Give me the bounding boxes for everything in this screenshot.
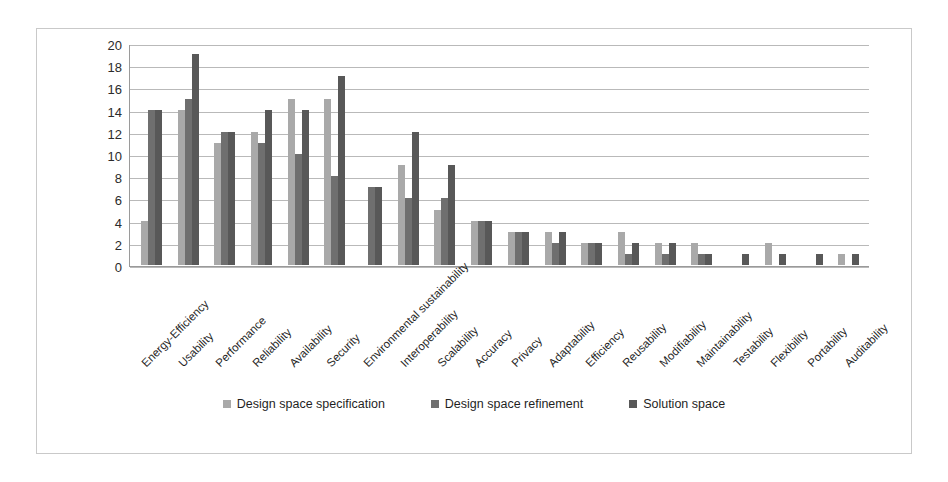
legend-swatch-icon bbox=[431, 400, 439, 408]
bar bbox=[324, 99, 331, 266]
y-tick-label: 2 bbox=[115, 238, 122, 251]
bar bbox=[765, 243, 772, 265]
bar bbox=[625, 254, 632, 265]
bar bbox=[221, 132, 228, 265]
bar bbox=[265, 110, 272, 265]
bar bbox=[185, 99, 192, 266]
bar bbox=[141, 221, 148, 265]
bar bbox=[581, 243, 588, 265]
y-tick-label: 0 bbox=[115, 261, 122, 274]
legend-label: Design space refinement bbox=[445, 397, 583, 411]
bar-group bbox=[647, 45, 684, 265]
legend-label: Solution space bbox=[643, 397, 725, 411]
bar-group bbox=[830, 45, 867, 265]
bar bbox=[515, 232, 522, 265]
bar bbox=[595, 243, 602, 265]
bar-group bbox=[757, 45, 794, 265]
bar-group bbox=[684, 45, 721, 265]
bar-group bbox=[720, 45, 757, 265]
bar-group bbox=[427, 45, 464, 265]
legend-item[interactable]: Solution space bbox=[629, 397, 725, 411]
bar bbox=[852, 254, 859, 265]
bar bbox=[375, 187, 382, 265]
x-tick-label: Privacy bbox=[509, 334, 544, 369]
bar-group bbox=[573, 45, 610, 265]
bar-group bbox=[206, 45, 243, 265]
bar-group bbox=[610, 45, 647, 265]
bar bbox=[338, 76, 345, 265]
y-tick-label: 10 bbox=[108, 150, 122, 163]
bar bbox=[698, 254, 705, 265]
bar bbox=[228, 132, 235, 265]
bar bbox=[412, 132, 419, 265]
chart-legend: Design space specificationDesign space r… bbox=[37, 397, 911, 411]
legend-swatch-icon bbox=[629, 400, 637, 408]
bar bbox=[552, 243, 559, 265]
x-tick-label: Portability bbox=[805, 325, 849, 369]
bar bbox=[192, 54, 199, 265]
legend-swatch-icon bbox=[223, 400, 231, 408]
y-tick-label: 20 bbox=[108, 39, 122, 52]
bar bbox=[251, 132, 258, 265]
bar bbox=[178, 110, 185, 265]
bar bbox=[214, 143, 221, 265]
bar-groups bbox=[131, 45, 869, 265]
bar bbox=[508, 232, 515, 265]
bar bbox=[816, 254, 823, 265]
bar bbox=[448, 165, 455, 265]
bar bbox=[662, 254, 669, 265]
bar bbox=[485, 221, 492, 265]
bar-group bbox=[133, 45, 170, 265]
bar bbox=[302, 110, 309, 265]
y-tick-label: 18 bbox=[108, 61, 122, 74]
bar-group bbox=[500, 45, 537, 265]
bar bbox=[258, 143, 265, 265]
bar-group bbox=[353, 45, 390, 265]
x-tick-label: Usability bbox=[176, 330, 215, 369]
bar bbox=[155, 110, 162, 265]
bar bbox=[705, 254, 712, 265]
bar bbox=[691, 243, 698, 265]
bar bbox=[368, 187, 375, 265]
gridline bbox=[130, 267, 869, 268]
legend-label: Design space specification bbox=[237, 397, 385, 411]
y-tick-label: 4 bbox=[115, 216, 122, 229]
bar-group bbox=[317, 45, 354, 265]
bar bbox=[588, 243, 595, 265]
bar bbox=[478, 221, 485, 265]
plot-box bbox=[129, 45, 869, 267]
bar bbox=[148, 110, 155, 265]
bar bbox=[295, 154, 302, 265]
chart-frame: 20181614121086420 Energy-EfficiencyUsabi… bbox=[36, 28, 912, 454]
bar bbox=[522, 232, 529, 265]
bar-group bbox=[794, 45, 831, 265]
bar-group bbox=[280, 45, 317, 265]
bar-group bbox=[390, 45, 427, 265]
bar bbox=[742, 254, 749, 265]
y-tick-label: 16 bbox=[108, 83, 122, 96]
bar bbox=[405, 198, 412, 265]
x-tick-label: Security bbox=[324, 331, 362, 369]
bar bbox=[441, 198, 448, 265]
bar bbox=[434, 210, 441, 266]
legend-item[interactable]: Design space specification bbox=[223, 397, 385, 411]
bar bbox=[471, 221, 478, 265]
bar-group bbox=[170, 45, 207, 265]
y-tick-label: 12 bbox=[108, 127, 122, 140]
y-tick-label: 8 bbox=[115, 172, 122, 185]
bar bbox=[779, 254, 786, 265]
bar bbox=[545, 232, 552, 265]
bar bbox=[288, 99, 295, 266]
bar bbox=[559, 232, 566, 265]
x-axis-category-labels: Energy-EfficiencyUsabilityPerformanceRel… bbox=[129, 269, 869, 369]
bar-group bbox=[243, 45, 280, 265]
legend-item[interactable]: Design space refinement bbox=[431, 397, 583, 411]
y-tick-label: 14 bbox=[108, 105, 122, 118]
bar bbox=[331, 176, 338, 265]
bar-group bbox=[463, 45, 500, 265]
x-tick-label: Energy-Efficiency bbox=[139, 298, 210, 369]
x-tick-label: Auditability bbox=[842, 322, 889, 369]
plot-area: 20181614121086420 bbox=[129, 45, 869, 267]
bar bbox=[838, 254, 845, 265]
bar bbox=[618, 232, 625, 265]
